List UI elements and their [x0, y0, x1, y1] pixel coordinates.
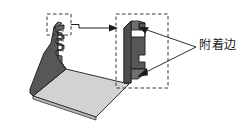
leader-line-lower — [137, 47, 196, 77]
detail-transfer-arrow — [71, 25, 118, 32]
diagram-canvas — [0, 0, 245, 134]
technical-diagram: 附着边 — [0, 0, 245, 134]
annotation-label-attached-edge: 附着边 — [199, 38, 237, 52]
profile-left-depth-edge — [124, 21, 131, 83]
